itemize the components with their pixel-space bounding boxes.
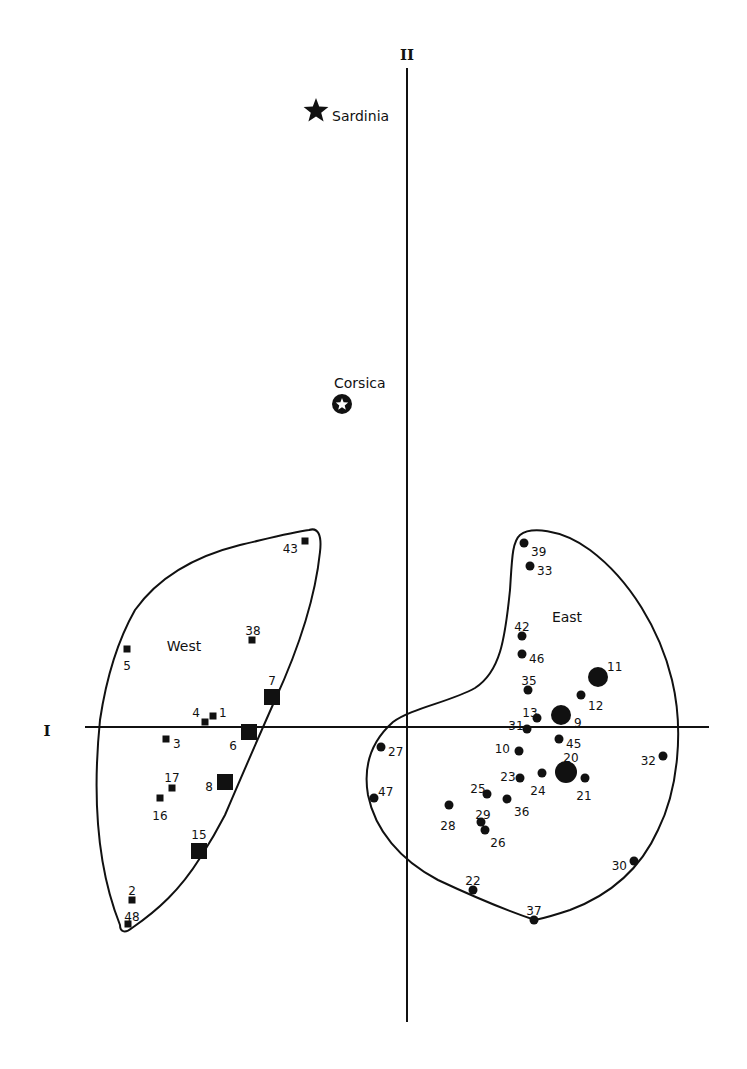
island-label: Sardinia — [332, 108, 389, 124]
point-label: 32 — [641, 754, 656, 768]
point-label: 17 — [164, 771, 179, 785]
point-label: 20 — [563, 751, 578, 765]
data-point-36: 36 — [503, 795, 530, 820]
data-point-3: 3 — [163, 736, 181, 752]
data-point-17: 17 — [164, 771, 179, 792]
point-label: 22 — [465, 874, 480, 888]
circle-marker-icon — [516, 774, 525, 783]
data-point-28: 28 — [440, 801, 455, 834]
data-point-42: 42 — [514, 620, 529, 641]
data-point-39: 39 — [520, 539, 547, 560]
region-label-west: West — [167, 638, 202, 654]
data-point-8: 8 — [205, 774, 233, 794]
data-point-25: 25 — [470, 782, 491, 799]
point-label: 1 — [219, 706, 227, 720]
square-marker-icon — [241, 724, 257, 740]
point-label: 3 — [173, 737, 181, 751]
island-label: Corsica — [334, 375, 386, 391]
point-label: 48 — [124, 910, 139, 924]
island-corsica: Corsica — [332, 375, 386, 414]
group-contours — [97, 529, 679, 931]
data-point-30: 30 — [612, 857, 639, 874]
data-point-43: 43 — [283, 538, 309, 557]
point-label: 13 — [522, 706, 537, 720]
point-label: 38 — [245, 624, 260, 638]
data-point-35: 35 — [521, 674, 536, 695]
circle-marker-icon — [377, 743, 386, 752]
point-label: 35 — [521, 674, 536, 688]
point-label: 7 — [268, 674, 276, 688]
circle-marker-icon — [520, 539, 529, 548]
ordination-scatter-plot: I II West12345678151617384348East9101112… — [0, 0, 747, 1069]
square-marker-icon — [302, 538, 309, 545]
data-point-7: 7 — [264, 674, 280, 705]
point-label: 33 — [537, 564, 552, 578]
data-point-12: 12 — [577, 691, 604, 714]
data-point-31: 31 — [508, 719, 531, 734]
circle-marker-icon — [581, 774, 590, 783]
point-label: 25 — [470, 782, 485, 796]
circle-marker-icon — [518, 650, 527, 659]
data-point-32: 32 — [641, 752, 668, 769]
square-marker-icon — [163, 736, 170, 743]
square-marker-icon — [217, 774, 233, 790]
data-point-4: 4 — [192, 706, 208, 726]
circle-marker-icon — [555, 735, 564, 744]
data-point-15: 15 — [191, 828, 207, 859]
data-point-45: 45 — [555, 735, 582, 752]
data-point-46: 46 — [518, 650, 545, 667]
data-point-22: 22 — [465, 874, 480, 895]
data-point-13: 13 — [522, 706, 541, 723]
point-label: 10 — [495, 742, 510, 756]
data-point-38: 38 — [245, 624, 260, 644]
point-label: 36 — [514, 805, 529, 819]
data-point-33: 33 — [526, 562, 553, 579]
point-label: 37 — [526, 904, 541, 918]
filled-star-icon — [304, 98, 329, 122]
island-markers: SardiniaCorsica — [304, 98, 389, 414]
square-marker-icon — [210, 713, 217, 720]
point-label: 24 — [530, 784, 545, 798]
point-label: 15 — [191, 828, 206, 842]
point-label: 8 — [205, 780, 213, 794]
point-label: 12 — [588, 699, 603, 713]
point-label: 16 — [152, 809, 167, 823]
data-point-29: 29 — [475, 808, 490, 827]
circle-marker-icon — [538, 769, 547, 778]
square-marker-icon — [191, 843, 207, 859]
square-marker-icon — [157, 795, 164, 802]
point-label: 11 — [607, 660, 622, 674]
data-point-10: 10 — [495, 742, 524, 756]
point-label: 31 — [508, 719, 523, 733]
data-point-27: 27 — [377, 743, 404, 760]
circle-marker-icon — [445, 801, 454, 810]
point-label: 42 — [514, 620, 529, 634]
point-label: 26 — [490, 836, 505, 850]
point-label: 30 — [612, 859, 627, 873]
data-point-37: 37 — [526, 904, 541, 925]
circle-marker-icon — [481, 826, 490, 835]
data-point-20: 20 — [555, 751, 579, 783]
axis-ii-label: II — [400, 46, 414, 64]
circle-marker-icon — [630, 857, 639, 866]
point-label: 23 — [500, 770, 515, 784]
point-label: 21 — [576, 789, 591, 803]
point-label: 47 — [378, 785, 393, 799]
data-point-2: 2 — [128, 884, 136, 904]
point-label: 27 — [388, 745, 403, 759]
data-points: West12345678151617384348East910111213202… — [123, 538, 667, 928]
contour-west — [97, 529, 321, 931]
point-label: 39 — [531, 545, 546, 559]
square-marker-icon — [202, 719, 209, 726]
point-label: 2 — [128, 884, 136, 898]
circle-marker-icon — [523, 725, 532, 734]
data-point-1: 1 — [210, 706, 227, 720]
island-sardinia: Sardinia — [304, 98, 389, 124]
point-label: 29 — [475, 808, 490, 822]
data-point-26: 26 — [481, 826, 506, 851]
region-label-east: East — [552, 609, 583, 625]
circle-marker-icon — [588, 667, 608, 687]
square-marker-icon — [264, 689, 280, 705]
axes: I II — [43, 46, 709, 1022]
data-point-21: 21 — [576, 774, 591, 804]
